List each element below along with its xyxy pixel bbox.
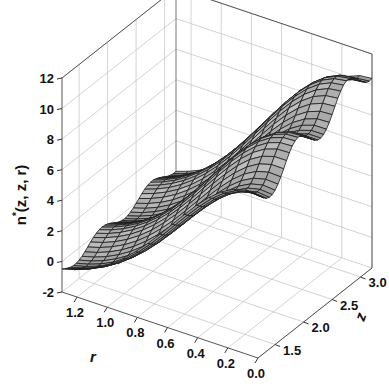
value-axis-title: n*(z, z, r) bbox=[11, 165, 29, 226]
r-tick-label: 0.8 bbox=[126, 325, 144, 340]
value-tick-label: 4 bbox=[47, 193, 55, 208]
r-tick-label: 0.0 bbox=[247, 366, 265, 381]
r-axis-title: r bbox=[90, 348, 97, 365]
r-tick-label: 0.4 bbox=[187, 346, 206, 361]
value-axis-ticks: -2024681012 bbox=[40, 71, 62, 300]
value-tick-label: 10 bbox=[40, 102, 54, 117]
z-tick-label: 2.5 bbox=[340, 298, 358, 313]
r-tick-label: 0.2 bbox=[217, 356, 235, 371]
r-tick-label: 1.2 bbox=[66, 305, 84, 320]
value-tick-label: 8 bbox=[47, 132, 54, 147]
value-tick-label: 12 bbox=[40, 71, 54, 86]
r-axis-ticks: 0.00.20.40.60.81.01.2 bbox=[66, 297, 265, 381]
surface-chart: -2024681012 0.00.20.40.60.81.01.2 1.52.0… bbox=[0, 0, 389, 390]
r-tick-label: 1.0 bbox=[96, 315, 114, 330]
value-tick-label: -2 bbox=[42, 285, 54, 300]
z-tick-label: 2.0 bbox=[312, 320, 330, 335]
value-tick-label: 0 bbox=[47, 254, 54, 269]
z-axis-title: z bbox=[351, 310, 370, 324]
z-axis-ticks: 1.52.02.53.0 bbox=[275, 275, 387, 358]
surface-mesh bbox=[62, 75, 372, 269]
value-tick-label: 2 bbox=[47, 224, 54, 239]
z-tick-label: 3.0 bbox=[369, 275, 387, 290]
value-tick-label: 6 bbox=[47, 163, 54, 178]
r-tick-label: 0.6 bbox=[156, 336, 174, 351]
z-tick-label: 1.5 bbox=[283, 343, 301, 358]
